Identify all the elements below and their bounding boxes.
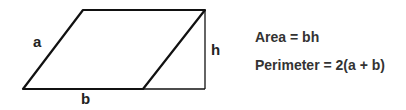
area-formula: Area = bh: [255, 29, 319, 45]
label-side-a: a: [33, 33, 41, 50]
label-height-h: h: [211, 41, 220, 58]
perimeter-formula: Perimeter = 2(a + b): [255, 57, 385, 73]
label-base-b: b: [81, 90, 90, 107]
parallelogram-shape: [23, 10, 205, 89]
parallelogram-figure: [0, 0, 406, 110]
